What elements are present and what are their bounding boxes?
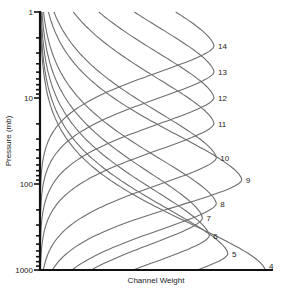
weighting-function-chart: 1413121110987654 1101001000 Channel Weig… bbox=[0, 0, 283, 293]
channel-label-12: 12 bbox=[218, 94, 227, 103]
y-axis-label: Pressure (mb) bbox=[4, 115, 13, 166]
channel-label-11: 11 bbox=[218, 120, 227, 129]
channel-label-8: 8 bbox=[220, 200, 225, 209]
channel-label-9: 9 bbox=[246, 176, 251, 185]
channel-curve-8 bbox=[44, 12, 217, 270]
channel-label-14: 14 bbox=[218, 42, 227, 51]
channel-label-6: 6 bbox=[213, 232, 218, 241]
channel-curve-7 bbox=[42, 12, 202, 270]
curves-group bbox=[40, 12, 265, 270]
y-tick-label: 10 bbox=[24, 94, 33, 103]
channel-label-7: 7 bbox=[206, 214, 211, 223]
channel-label-5: 5 bbox=[232, 250, 237, 259]
channel-curve-10 bbox=[43, 12, 216, 270]
channel-curve-4 bbox=[40, 12, 265, 270]
y-ticks-group: 1101001000 bbox=[15, 8, 40, 275]
channel-label-13: 13 bbox=[218, 68, 227, 77]
y-tick-label: 100 bbox=[20, 180, 34, 189]
x-axis-label: Channel Weight bbox=[128, 276, 186, 285]
y-tick-label: 1 bbox=[29, 8, 34, 17]
y-tick-label: 1000 bbox=[15, 266, 33, 275]
channel-label-10: 10 bbox=[220, 154, 229, 163]
